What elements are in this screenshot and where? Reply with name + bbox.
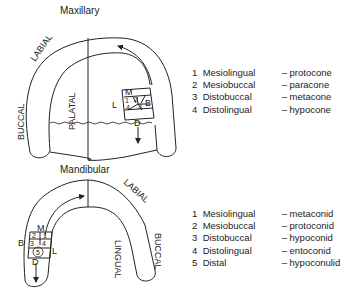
maxillary-buccal-label: BUCCAL xyxy=(16,103,26,140)
mandibular-lingual-label: LINGUAL xyxy=(113,240,123,279)
mandibular-distal-label: D xyxy=(32,257,39,267)
maxillary-lingual-label: L xyxy=(112,100,117,110)
mandibular-cusp-2: 2 xyxy=(32,232,36,239)
maxillary-cusp-3: 3 xyxy=(138,103,142,110)
mandibular-buccal-orientation-label: B xyxy=(18,238,24,248)
mandibular-title: Mandibular xyxy=(60,164,110,175)
maxillary-cusp-2: 2 xyxy=(134,96,138,103)
legend-row: 5 Distal– hypoconulid xyxy=(192,257,340,269)
maxillary-mesial-label: M xyxy=(125,87,133,97)
legend-row: 3 Distobuccal– hypoconid xyxy=(192,232,340,244)
mandibular-cusp-4: 4 xyxy=(42,240,46,247)
maxillary-title: Maxillary xyxy=(60,5,99,16)
maxillary-distal-label: D xyxy=(134,118,141,128)
mandibular-buccal-label: BUCCAL xyxy=(153,233,163,270)
mandibular-legend: 1 Mesiolingual– metaconid 2 Mesiobuccal–… xyxy=(192,208,340,269)
legend-row: 1 Mesiolingual– protocone xyxy=(192,67,332,79)
maxillary-cusp-1: 1 xyxy=(125,97,129,104)
mandibular-cusp-1: 1 xyxy=(43,232,47,239)
legend-row: 1 Mesiolingual– metaconid xyxy=(192,208,340,220)
maxillary-legend: 1 Mesiolingual– protocone 2 Mesiobuccal–… xyxy=(192,67,332,116)
legend-row: 4 Distolingual– hypocone xyxy=(192,104,332,116)
mandibular-cusp-3: 3 xyxy=(30,240,34,247)
legend-row: 2 Mesiobuccal– paracone xyxy=(192,79,332,91)
mandibular-lingual-orientation-label: L xyxy=(52,246,57,256)
legend-row: 4 Distolingual– entoconid xyxy=(192,245,340,257)
mandibular-labial-label: LABIAL xyxy=(122,177,151,205)
maxillary-cusp-4: 4 xyxy=(126,104,130,111)
maxillary-labial-label: LABIAL xyxy=(28,32,54,63)
legend-row: 2 Mesiobuccal– protoconid xyxy=(192,220,340,232)
legend-row: 3 Distobuccal– metacone xyxy=(192,91,332,103)
maxillary-buccal-orientation-label: B xyxy=(145,98,151,108)
mandibular-cusp-5: 5 xyxy=(36,249,40,256)
maxillary-palatal-label: PALATAL xyxy=(67,92,77,130)
maxillary-arch xyxy=(26,38,176,161)
